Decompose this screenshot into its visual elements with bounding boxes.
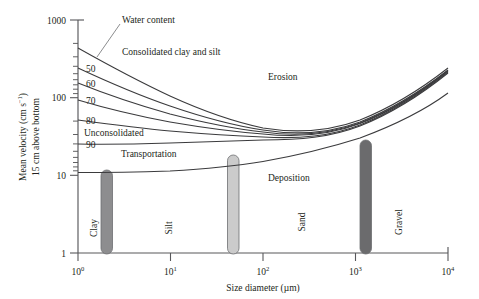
annotation-consolidated-clay-and-silt: Consolidated clay and silt [122,47,221,57]
x-tick-labels: 100 101 102 103 104 [72,265,456,277]
sediment-label-silt: Silt [164,221,174,235]
sediment-class-labels: Clay Silt Sand Gravel [89,209,404,237]
curve-label-90: 90 [86,140,96,150]
y-axis-title-line1: Mean velocity (cm s−1) [16,93,29,181]
x-tick-label-1e1: 101 [164,265,177,277]
x-tick-label-1e0: 100 [72,265,86,277]
x-tick-label-1e2: 102 [257,265,270,277]
region-annotations: Water content Consolidated clay and silt… [84,15,310,183]
y-tick-label-10: 10 [57,171,67,181]
annotation-water-content: Water content [122,15,175,25]
y-tick-label-100: 100 [52,93,67,103]
x-ticks [78,253,448,261]
x-axis-title: Size diameter (µm) [226,283,300,294]
y-tick-labels: 1000 100 10 1 [47,16,66,259]
curve-label-50: 50 [86,64,96,74]
sediment-label-sand: Sand [297,212,307,231]
y-tick-label-1000: 1000 [47,16,66,26]
y-axis-title-line2: 15 cm above bottom [31,97,41,175]
annotation-erosion: Erosion [268,72,298,82]
hjulstrom-diagram: 1000 100 10 1 100 101 102 103 104 Size d… [0,0,479,299]
water-content-leader-line [97,24,120,57]
annotation-transportation: Transportation [121,149,177,159]
sediment-bar-clay [101,170,113,254]
curve-label-80: 80 [86,116,96,126]
curve-label-60: 60 [86,79,96,89]
curve-consolidated-top [78,48,448,131]
y-tick-label-1: 1 [61,249,66,259]
annotation-deposition: Deposition [268,173,310,183]
y-ticks [70,20,78,253]
curve-label-70: 70 [86,96,96,106]
x-tick-label-1e3: 103 [349,265,363,277]
sediment-bar-gravel [360,140,372,254]
sediment-bar-silt [228,155,240,254]
sediment-label-clay: Clay [89,219,99,237]
x-tick-label-1e4: 104 [442,265,456,277]
sediment-label-gravel: Gravel [394,209,404,235]
annotation-unconsolidated: Unconsolidated [84,128,144,138]
